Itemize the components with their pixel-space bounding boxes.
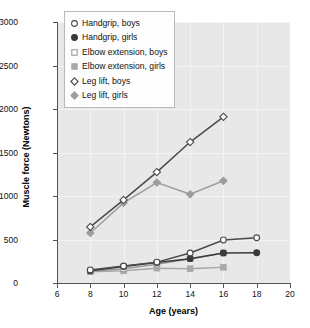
series-line (90, 181, 223, 233)
data-point-open-circle (87, 267, 93, 273)
data-point-filled-diamond (220, 177, 227, 184)
legend-marker-filled-square-icon (69, 61, 82, 72)
legend-label: Elbow extension, boys (82, 47, 168, 58)
data-point-open-circle (121, 263, 127, 269)
chart-legend: Handgrip, boysHandgrip, girlsElbow exten… (64, 11, 175, 108)
data-point-open-circle (187, 250, 193, 256)
legend-item: Leg lift, boys (69, 74, 168, 89)
legend-item: Handgrip, girls (69, 31, 168, 46)
data-point-filled-square (221, 265, 226, 270)
data-point-filled-circle (254, 250, 260, 256)
legend-item: Elbow extension, boys (69, 45, 168, 60)
data-point-filled-square (187, 266, 192, 271)
series-group (87, 113, 227, 230)
legend-label: Handgrip, boys (82, 18, 140, 29)
series-group (87, 177, 227, 236)
legend-marker-filled-circle-icon (69, 32, 82, 43)
chart-figure: 050010001500200025003000 68101214161820 … (0, 0, 310, 328)
data-point-filled-diamond (187, 191, 194, 198)
legend-item: Handgrip, boys (69, 16, 168, 31)
legend-marker-open-circle-icon (69, 18, 82, 29)
legend-label: Leg lift, boys (82, 76, 130, 87)
data-point-filled-circle (187, 256, 193, 262)
legend-item: Leg lift, girls (69, 89, 168, 104)
legend-label: Handgrip, girls (82, 32, 137, 43)
legend-label: Leg lift, girls (82, 90, 128, 101)
data-point-open-circle (154, 259, 160, 265)
data-point-filled-circle (221, 250, 227, 256)
legend-marker-open-diamond-icon (69, 76, 82, 87)
legend-marker-filled-diamond-icon (69, 90, 82, 101)
data-point-filled-diamond (153, 179, 160, 186)
data-point-open-circle (254, 235, 260, 241)
series-group (87, 235, 259, 273)
data-point-open-circle (221, 237, 227, 243)
series-line (90, 238, 256, 270)
legend-item: Elbow extension, girls (69, 60, 168, 75)
legend-label: Elbow extension, girls (82, 61, 165, 72)
legend-marker-open-square-icon (69, 47, 82, 58)
